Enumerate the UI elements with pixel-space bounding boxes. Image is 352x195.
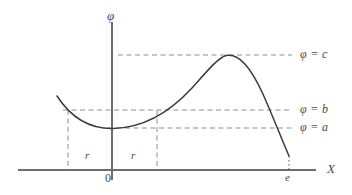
figure-container: φ X 0 φ = c φ = b φ = a r r e bbox=[0, 0, 352, 195]
endpoint-label-e: e bbox=[285, 172, 290, 183]
graph-canvas bbox=[0, 0, 352, 195]
phi-curve bbox=[57, 55, 289, 156]
y-axis-label: φ bbox=[107, 9, 114, 22]
level-label-b: φ = b bbox=[300, 103, 328, 115]
x-axis-label: X bbox=[327, 162, 335, 175]
level-label-a: φ = a bbox=[300, 121, 328, 133]
origin-label: 0 bbox=[105, 172, 111, 184]
level-label-c: φ = c bbox=[300, 48, 328, 60]
tick-label-r-right: r bbox=[131, 150, 135, 161]
tick-label-r-left: r bbox=[85, 150, 89, 161]
